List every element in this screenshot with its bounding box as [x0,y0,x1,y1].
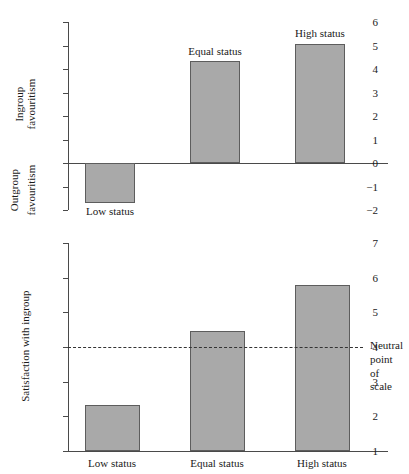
y-tick-5-bottom [63,312,68,313]
y-axis-title-ingroup-line2: favouritism [25,79,37,130]
y-tick-label-1-bottom: 1 [373,446,379,457]
plot-area-top: 6 5 4 3 2 1 0 −1 −2 Low status Equal sta… [68,22,388,210]
x-axis-label-low-status: Low status [88,458,136,469]
y-tick-label-minus2: −2 [366,205,378,216]
y-tick-2 [63,116,68,117]
y-tick-label-0: 0 [373,158,379,169]
chart-ingroup-favouritism: Ingroup favouritism Outgroup favouritism… [0,0,409,237]
bar-low-status-bottom [85,405,140,451]
plot-area-bottom: 7 6 5 4 3 2 1 Neutral point of scale Low… [68,243,388,451]
y-axis-title-outgroup-line2: favouritism [25,165,37,216]
x-axis-line-bottom [68,451,388,452]
y-axis-title-outgroup-2: favouritism [25,148,37,232]
y-axis-title-outgroup-line1: Outgroup [8,169,20,211]
bar-label-low-status-top: Low status [86,206,134,217]
neutral-point-annotation: Neutral point of scale [370,339,403,394]
x-axis-label-high-status: High status [297,458,347,469]
y-axis-title-satisfaction: Satisfaction with ingroup [19,276,31,416]
y-tick-3-bottom [63,382,68,383]
y-tick-label-minus1: −1 [366,181,378,192]
y-tick-label-6-bottom: 6 [373,272,379,283]
chart-satisfaction-with-ingroup: Satisfaction with ingroup 7 6 5 4 3 2 1 … [0,237,409,474]
neutral-point-reference-line [68,347,363,348]
bar-equal-status-top [190,61,240,163]
y-tick-minus2 [63,210,68,211]
y-tick-3 [63,93,68,94]
y-tick-0 [63,163,68,164]
y-tick-label-2: 2 [373,111,379,122]
y-tick-1-bottom [63,451,68,452]
y-tick-6-bottom [63,278,68,279]
y-axis-title-ingroup-2: favouritism [25,62,37,146]
bar-high-status-bottom [295,285,350,451]
x-axis-label-equal-status: Equal status [190,458,243,469]
y-tick-minus1 [63,187,68,188]
bar-equal-status-bottom [190,331,245,451]
y-tick-6 [63,22,68,23]
y-axis-title-outgroup: Outgroup [8,148,20,232]
y-axis-title-ingroup-line1: Ingroup [13,87,25,122]
y-axis-title-ingroup: Ingroup [13,62,25,146]
y-tick-7 [63,243,68,244]
y-tick-label-2-bottom: 2 [373,411,379,422]
y-tick-1 [63,140,68,141]
y-tick-4 [63,69,68,70]
y-tick-label-7: 7 [373,238,379,249]
bar-high-status-top [295,44,345,163]
y-axis-line-top [68,22,69,210]
y-tick-label-5-bottom: 5 [373,307,379,318]
bar-low-status-top [85,163,135,203]
bar-label-high-status-top: High status [295,28,345,39]
y-tick-5 [63,46,68,47]
y-tick-label-3: 3 [373,87,379,98]
y-tick-2-bottom [63,416,68,417]
y-tick-label-4: 4 [373,64,379,75]
y-axis-title-satisfaction-label: Satisfaction with ingroup [19,291,31,402]
y-tick-label-5: 5 [373,40,379,51]
y-tick-label-6: 6 [373,17,379,28]
y-tick-label-1: 1 [373,134,379,145]
bar-label-equal-status-top: Equal status [188,46,241,57]
